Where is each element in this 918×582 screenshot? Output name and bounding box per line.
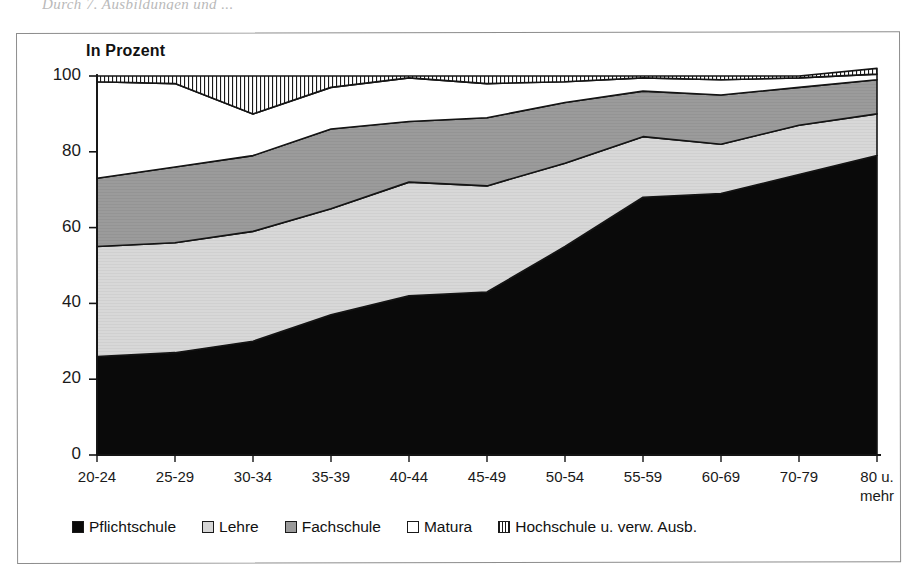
legend-label: Fachschule <box>302 518 381 536</box>
chart-legend: PflichtschuleLehreFachschuleMaturaHochsc… <box>72 518 697 536</box>
x-axis-tick-label-line: 30-34 <box>214 467 292 486</box>
y-axis-tick-label: 60 <box>35 217 81 237</box>
x-axis-tick-label-line: mehr <box>838 486 916 505</box>
x-axis-tick-label-line: 20-24 <box>58 467 136 486</box>
x-axis-tick-label-line: 35-39 <box>292 467 370 486</box>
x-axis-tick-label: 20-24 <box>58 467 136 486</box>
x-axis-tick-label: 55-59 <box>604 467 682 486</box>
legend-item[interactable]: Lehre <box>202 518 259 536</box>
legend-swatch-icon <box>202 521 214 533</box>
x-axis-tick-label-line: 40-44 <box>370 467 448 486</box>
x-axis-tick-label-line: 45-49 <box>448 467 526 486</box>
x-axis-tick-label-line: 80 u. <box>838 467 916 486</box>
legend-swatch-icon <box>285 521 297 533</box>
x-axis-tick-label: 60-69 <box>682 467 760 486</box>
x-axis-tick-label: 35-39 <box>292 467 370 486</box>
x-axis-tick-label-line: 25-29 <box>136 467 214 486</box>
x-axis-tick-label: 80 u.mehr <box>838 467 916 505</box>
y-axis-tick-label: 40 <box>35 292 81 312</box>
legend-swatch-icon <box>498 521 510 533</box>
y-axis-tick-label: 80 <box>35 141 81 161</box>
y-axis-tick-label: 0 <box>35 444 81 464</box>
y-axis-tick-label: 100 <box>35 65 81 85</box>
legend-item[interactable]: Matura <box>407 518 472 536</box>
axis-labels-group: 02040608010020-2425-2930-3435-3940-4445-… <box>0 0 918 582</box>
x-axis-tick-label: 40-44 <box>370 467 448 486</box>
x-axis-tick-label: 25-29 <box>136 467 214 486</box>
legend-label: Pflichtschule <box>89 518 176 536</box>
legend-item[interactable]: Hochschule u. verw. Ausb. <box>498 518 697 536</box>
x-axis-tick-label: 30-34 <box>214 467 292 486</box>
legend-swatch-icon <box>72 521 84 533</box>
x-axis-tick-label: 45-49 <box>448 467 526 486</box>
y-axis-tick-label: 20 <box>35 368 81 388</box>
legend-label: Lehre <box>219 518 259 536</box>
x-axis-tick-label: 70-79 <box>760 467 838 486</box>
legend-item[interactable]: Pflichtschule <box>72 518 176 536</box>
legend-swatch-icon <box>407 521 419 533</box>
legend-item[interactable]: Fachschule <box>285 518 381 536</box>
x-axis-tick-label: 50-54 <box>526 467 604 486</box>
x-axis-tick-label-line: 60-69 <box>682 467 760 486</box>
legend-label: Hochschule u. verw. Ausb. <box>515 518 697 536</box>
legend-label: Matura <box>424 518 472 536</box>
x-axis-tick-label-line: 50-54 <box>526 467 604 486</box>
x-axis-tick-label-line: 55-59 <box>604 467 682 486</box>
x-axis-tick-label-line: 70-79 <box>760 467 838 486</box>
